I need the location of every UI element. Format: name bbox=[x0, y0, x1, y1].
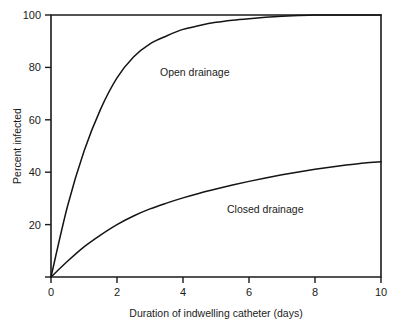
curve-label-closed-drainage: Closed drainage bbox=[227, 203, 304, 215]
x-tick-label-8: 8 bbox=[312, 286, 318, 298]
y-axis-title: Percent infected bbox=[11, 108, 23, 184]
x-tick-label-0: 0 bbox=[48, 286, 54, 298]
x-tick-label-2: 2 bbox=[114, 286, 120, 298]
x-tick-label-4: 4 bbox=[180, 286, 186, 298]
y-tick-label-80: 80 bbox=[29, 61, 41, 73]
y-tick-label-60: 60 bbox=[29, 114, 41, 126]
x-tick-label-6: 6 bbox=[246, 286, 252, 298]
y-tick-label-20: 20 bbox=[29, 219, 41, 231]
x-tick-label-10: 10 bbox=[375, 286, 387, 298]
curve-label-open-drainage: Open drainage bbox=[160, 66, 230, 78]
y-tick-label-100: 100 bbox=[23, 9, 41, 21]
x-axis-title: Duration of indwelling catheter (days) bbox=[129, 307, 302, 319]
line-chart: 100 80 60 40 20 0 2 4 6 8 10 Percent inf… bbox=[0, 0, 397, 326]
chart-figure: 100 80 60 40 20 0 2 4 6 8 10 Percent inf… bbox=[0, 0, 397, 326]
y-tick-label-40: 40 bbox=[29, 166, 41, 178]
